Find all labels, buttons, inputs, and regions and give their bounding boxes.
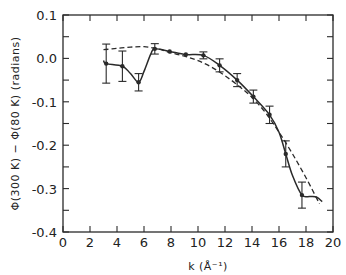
- x-tick-label: 2: [86, 235, 94, 250]
- plot-series: [102, 44, 322, 208]
- fit-curve-dashed: [104, 47, 320, 204]
- data-point: [235, 78, 239, 82]
- x-tick-label: 16: [271, 235, 288, 250]
- x-axis-title: k (Å⁻¹): [188, 260, 228, 273]
- data-point: [201, 53, 205, 57]
- y-tick-label: -0.1: [32, 95, 57, 110]
- y-tick-label: 0.0: [36, 51, 57, 66]
- data-point: [104, 61, 108, 65]
- x-tick-label: 4: [113, 235, 121, 250]
- y-axis-title: Φ(300 K) − Φ(80 K) (radians): [9, 37, 22, 211]
- x-tick-label: 0: [59, 235, 67, 250]
- axis-labels: 024681012141618200.10.0-0.1-0.2-0.3-0.4k…: [9, 8, 341, 273]
- x-tick-label: 14: [244, 235, 261, 250]
- data-point: [300, 193, 304, 197]
- data-point: [136, 80, 140, 84]
- y-tick-label: -0.2: [32, 138, 57, 153]
- measured-curve-solid: [104, 49, 323, 202]
- x-tick-label: 12: [217, 235, 234, 250]
- x-tick-label: 6: [140, 235, 148, 250]
- x-tick-label: 20: [325, 235, 342, 250]
- data-point: [284, 152, 288, 156]
- x-tick-label: 10: [190, 235, 207, 250]
- y-tick-label: 0.1: [36, 8, 57, 23]
- data-point: [217, 63, 221, 67]
- plot-axes: [63, 15, 333, 232]
- chart: 024681012141618200.10.0-0.1-0.2-0.3-0.4k…: [0, 0, 346, 275]
- data-point: [120, 64, 124, 68]
- x-tick-label: 18: [298, 235, 315, 250]
- x-tick-label: 8: [167, 235, 175, 250]
- y-tick-label: -0.3: [32, 182, 57, 197]
- plot-frame: [63, 15, 333, 232]
- y-tick-label: -0.4: [32, 225, 57, 240]
